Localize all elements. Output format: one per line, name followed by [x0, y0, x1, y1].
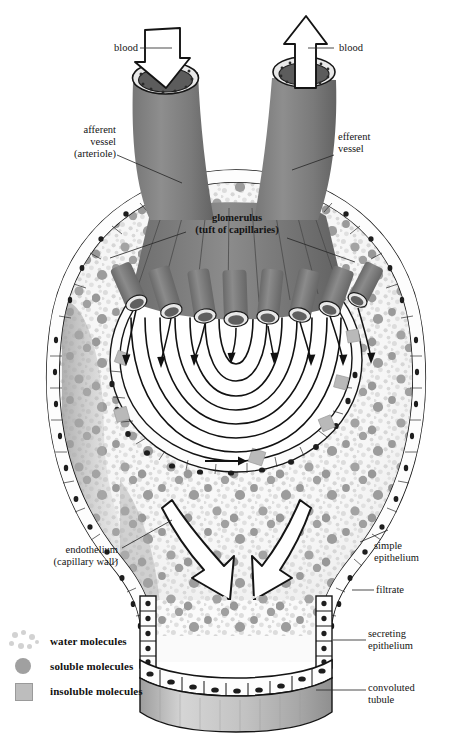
label-afferent-vessel: afferent vessel (arteriole)	[28, 124, 116, 161]
legend-label-water: water molecules	[50, 635, 127, 647]
legend-label-insoluble: insoluble molecules	[50, 685, 143, 697]
label-blood-in: blood	[50, 42, 138, 54]
legend-item-water: water molecules	[8, 628, 188, 653]
label-simple-epithelium: simple epithelium	[374, 540, 466, 564]
water-molecules-icon	[8, 630, 42, 652]
label-filtrate: filtrate	[376, 584, 456, 596]
label-glomerulus: glomerulus (tuft of capillaries)	[166, 212, 308, 236]
legend-item-insoluble: insoluble molecules	[8, 678, 188, 703]
label-efferent-vessel: efferent vessel	[338, 131, 434, 155]
legend-item-soluble: soluble molecules	[8, 653, 188, 678]
label-blood-out: blood	[339, 42, 429, 54]
label-convoluted-tubule: convoluted tubule	[368, 682, 464, 706]
afferent-vessel	[133, 62, 215, 220]
label-endothelium: endothelium (capillary wall)	[10, 544, 118, 568]
legend: water molecules soluble molecules insolu…	[8, 628, 188, 703]
label-secreting-epithelium: secreting epithelium	[368, 628, 462, 652]
soluble-molecules-icon	[8, 655, 42, 677]
legend-label-soluble: soluble molecules	[50, 660, 133, 672]
insoluble-molecules-icon	[8, 680, 42, 702]
diagram-canvas: blood blood afferent vessel (arteriole) …	[0, 0, 473, 741]
